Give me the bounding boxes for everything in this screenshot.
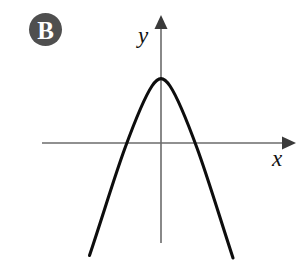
panel-badge-label: B — [37, 17, 54, 44]
y-axis-label: y — [136, 23, 149, 48]
x-axis-label: x — [271, 146, 283, 171]
parabola-figure: B y x — [0, 0, 305, 264]
figure-container: B y x — [0, 0, 305, 264]
